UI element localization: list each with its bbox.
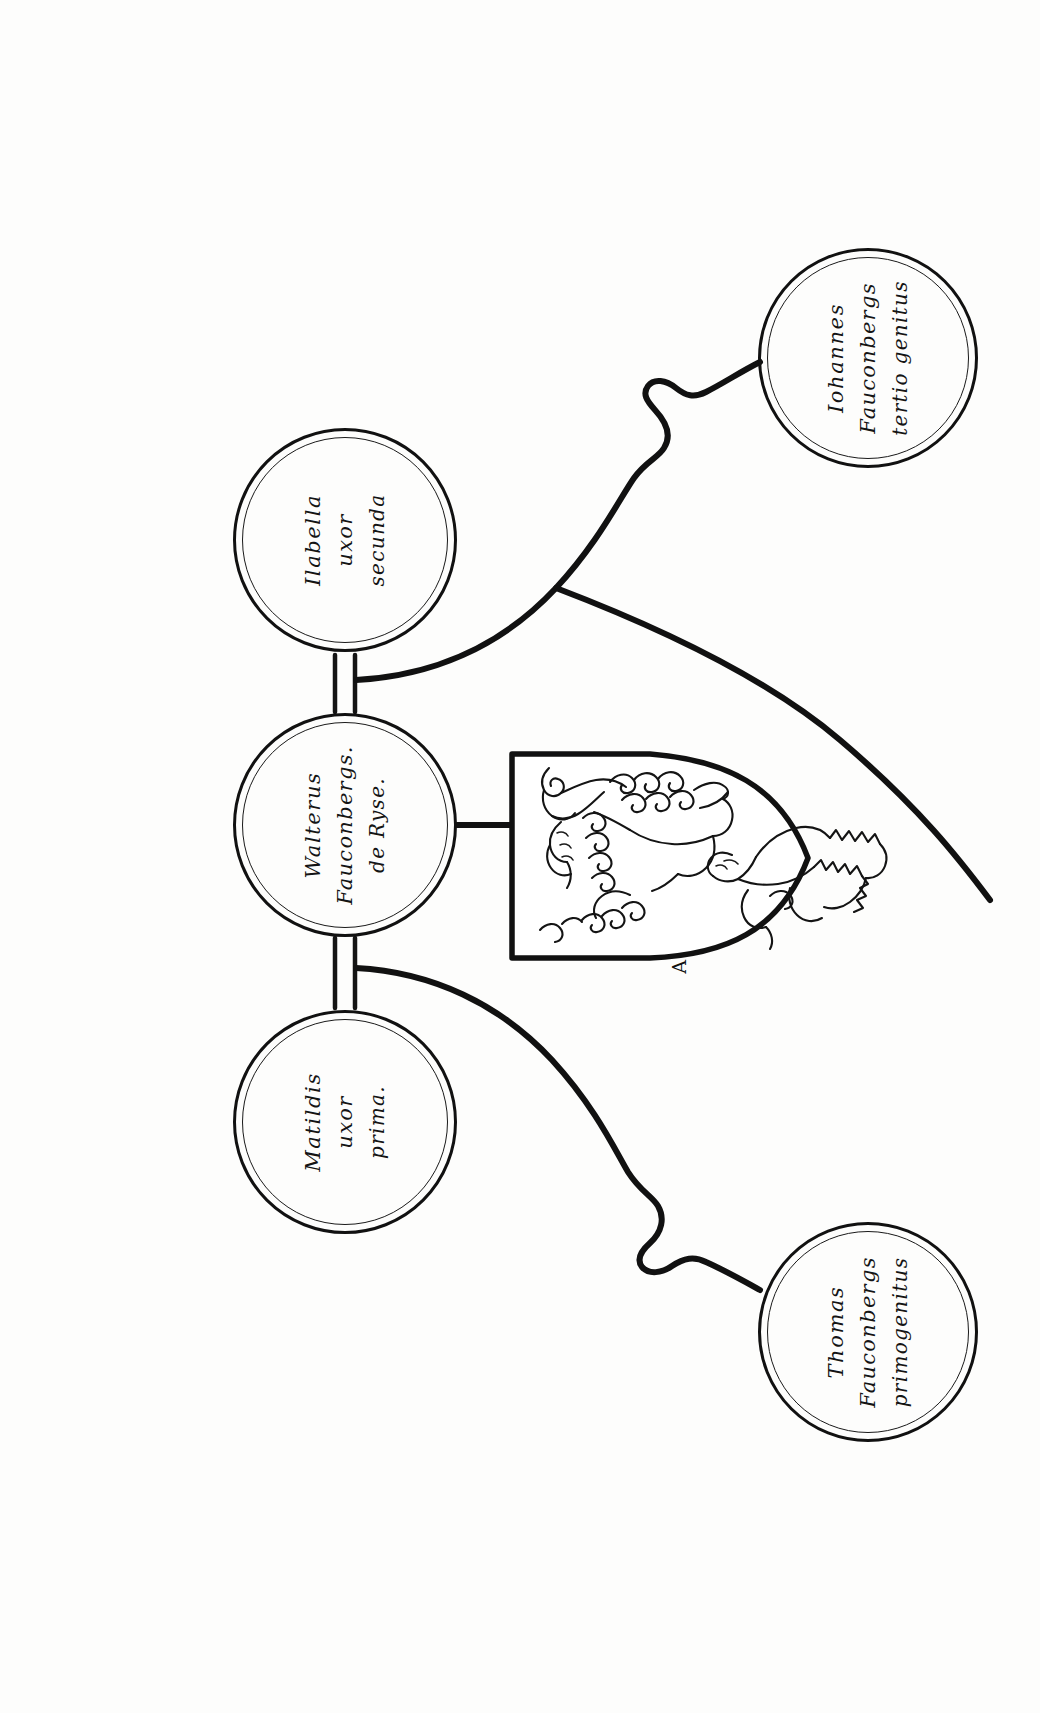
lion-rampant-charge-1 (540, 768, 733, 942)
pedigree-chart-page: A Ilabella uxor secunda Walterus Fauconb… (0, 0, 1040, 1713)
marriage-bar-first-wife (335, 938, 355, 1008)
roundel-inner-ring (242, 437, 448, 643)
node-ilabella-uxor-secunda[interactable]: Ilabella uxor secunda (233, 428, 457, 652)
node-thomas-fauconbergs-primogenitus[interactable]: Thomas Fauconbergs primogenitus (758, 1222, 978, 1442)
shield-mark-a: A (668, 960, 690, 975)
node-iohannes-fauconbergs-tertio-genitus[interactable]: Iohannes Fauconbergs tertio genitus (758, 248, 978, 468)
roundel-inner-ring (242, 722, 448, 928)
roundel-inner-ring (767, 257, 969, 459)
node-walterus-fauconbergs-de-ryse[interactable]: Walterus Fauconbergs. de Ryse. (233, 713, 457, 937)
coat-of-arms-shield: A (512, 754, 886, 975)
node-matildis-uxor-prima[interactable]: Matildis uxor prima. (233, 1010, 457, 1234)
descent-sweep-right (556, 588, 990, 900)
marriage-bar-second-wife (335, 655, 355, 712)
lion-rampant-charge-2 (708, 827, 887, 949)
roundel-inner-ring (242, 1019, 448, 1225)
roundel-inner-ring (767, 1231, 969, 1433)
shield-mark-a-text: A (668, 960, 690, 975)
